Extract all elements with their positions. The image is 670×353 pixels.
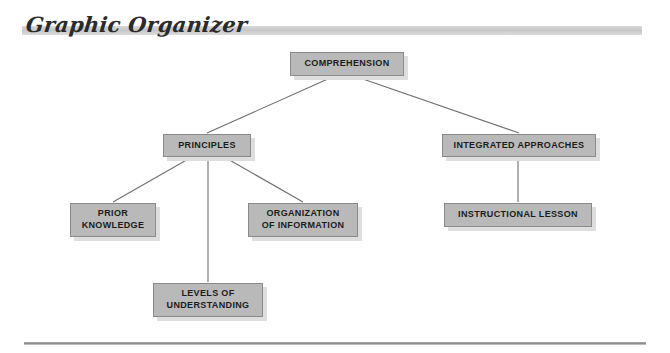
edge-principles-prior-knowledge [113,158,190,202]
node-principles[interactable]: PRINCIPLES [163,134,251,157]
node-prior-knowledge[interactable]: PRIOR KNOWLEDGE [70,203,156,237]
node-organization-of-information-label: ORGANIZATION OF INFORMATION [256,208,351,231]
footer-rule [24,342,646,345]
edge-principles-organization [226,158,303,202]
node-comprehension[interactable]: COMPREHENSION [290,52,404,76]
node-organization-of-information[interactable]: ORGANIZATION OF INFORMATION [248,203,358,237]
edge-comprehension-integrated [360,78,519,133]
node-instructional-lesson-label: INSTRUCTIONAL LESSON [452,209,584,221]
node-levels-of-understanding[interactable]: LEVELS OF UNDERSTANDING [153,283,263,317]
node-prior-knowledge-label: PRIOR KNOWLEDGE [76,208,151,231]
node-instructional-lesson[interactable]: INSTRUCTIONAL LESSON [444,203,592,227]
graphic-organizer-page: Graphic Organizer COMPREHENSION PRINCIPL… [0,0,670,353]
edge-comprehension-principles [207,78,330,133]
node-integrated-approaches[interactable]: INTEGRATED APPROACHES [442,134,596,157]
node-comprehension-label: COMPREHENSION [298,58,395,70]
node-integrated-approaches-label: INTEGRATED APPROACHES [448,140,591,152]
node-levels-of-understanding-label: LEVELS OF UNDERSTANDING [161,288,256,311]
node-principles-label: PRINCIPLES [172,140,242,152]
